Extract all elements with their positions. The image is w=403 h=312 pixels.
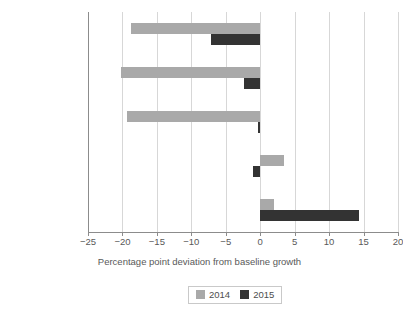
x-tick-label-text: 20 [393,236,403,247]
bar-2014-agriculture [131,23,261,34]
gridline-20 [398,12,399,232]
x-tick-label-text: 10 [324,236,335,247]
legend-label-2015: 2015 [253,289,274,300]
x-tick-label-text: 15 [358,236,369,247]
gridline--15 [157,12,158,232]
x-axis-line [88,232,398,233]
bar-2014-public-services [260,199,274,210]
x-tick-label-text: 5 [292,236,297,247]
bar-2014-industry [121,67,260,78]
gridline-5 [295,12,296,232]
legend-label-2014: 2014 [209,289,230,300]
bar-2014-private-services [260,155,283,166]
gridline-15 [364,12,365,232]
legend-swatch-2015-icon [240,290,249,299]
x-tick-label-text: −25 [80,236,96,247]
x-tick-label-text: −15 [149,236,165,247]
x-tick-label-text: 0 [258,236,263,247]
x-tick-label-text: −5 [220,236,231,247]
gridline--10 [191,12,192,232]
x-tick-label-text: −10 [183,236,199,247]
plot-area [88,12,398,232]
gridline--5 [226,12,227,232]
bar-2015-industry [244,78,260,89]
legend-swatch-2014-icon [196,290,205,299]
gridline-10 [329,12,330,232]
bar-2015-private-services [253,166,260,177]
gridline--20 [122,12,123,232]
legend-item-2015[interactable]: 2015 [240,289,274,300]
x-tick-label-text: −20 [114,236,130,247]
x-axis-title: Percentage point deviation from baseline… [0,256,399,267]
bar-2015-agriculture [211,34,260,45]
legend-item-2014[interactable]: 2014 [196,289,230,300]
bar-2015-public-services [260,210,359,221]
y-axis-line [88,12,89,233]
bar-2014-mining [127,111,260,122]
bar-2015-mining [258,122,260,133]
chart-legend: 2014 2015 [188,286,282,304]
